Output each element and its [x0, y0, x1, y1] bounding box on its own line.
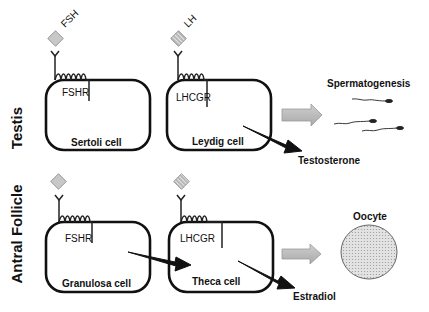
row-testis: Testis FSH FSHR Sertoli cell LH: [8, 7, 411, 166]
receptor-label-fshr: FSHR: [62, 87, 89, 98]
estradiol-arrow-icon: [238, 261, 295, 289]
theca-cell: LHCGR Theca cell: [169, 174, 273, 292]
outcome-label-spermatogenesis: Spermatogenesis: [327, 78, 411, 89]
gray-progression-arrow-icon: [282, 244, 321, 264]
lh-hormone-icon: [171, 31, 187, 47]
gray-progression-arrow-icon: [282, 104, 322, 126]
oocyte-icon: [341, 225, 397, 279]
cell-label-leydig: Leydig cell: [192, 136, 244, 147]
lh-hormone-icon: [174, 174, 190, 190]
fsh-hormone-icon: [48, 31, 64, 47]
row-antral-follicle: Antral Follicle FSHR Granulosa cell: [8, 174, 397, 302]
granulosa-cell: FSHR Granulosa cell: [46, 174, 150, 292]
cell-label-granulosa: Granulosa cell: [62, 278, 131, 289]
outcome-label-oocyte: Oocyte: [353, 211, 387, 222]
hormone-label-lh: LH: [182, 13, 199, 30]
sperm-icon: [334, 99, 404, 131]
receptor-label-lhcgr: LHCGR: [176, 92, 211, 103]
leydig-cell: LH LHCGR Leydig cell: [167, 13, 271, 150]
receptor-label-fshr: FSHR: [65, 233, 92, 244]
product-label-estradiol: Estradiol: [293, 291, 336, 302]
receptor-label-lhcgr: LHCGR: [180, 233, 215, 244]
sertoli-cell: FSH FSHR Sertoli cell: [46, 7, 150, 150]
granulosa-to-theca-arrow-icon: [128, 252, 191, 271]
hormone-label-fsh: FSH: [59, 7, 81, 29]
cell-label-sertoli: Sertoli cell: [71, 137, 122, 148]
side-label-testis: Testis: [8, 107, 25, 149]
product-label-testosterone: Testosterone: [298, 155, 360, 166]
fsh-hormone-icon: [51, 174, 67, 190]
cell-label-theca: Theca cell: [192, 276, 241, 287]
side-label-antral-follicle: Antral Follicle: [8, 184, 25, 283]
